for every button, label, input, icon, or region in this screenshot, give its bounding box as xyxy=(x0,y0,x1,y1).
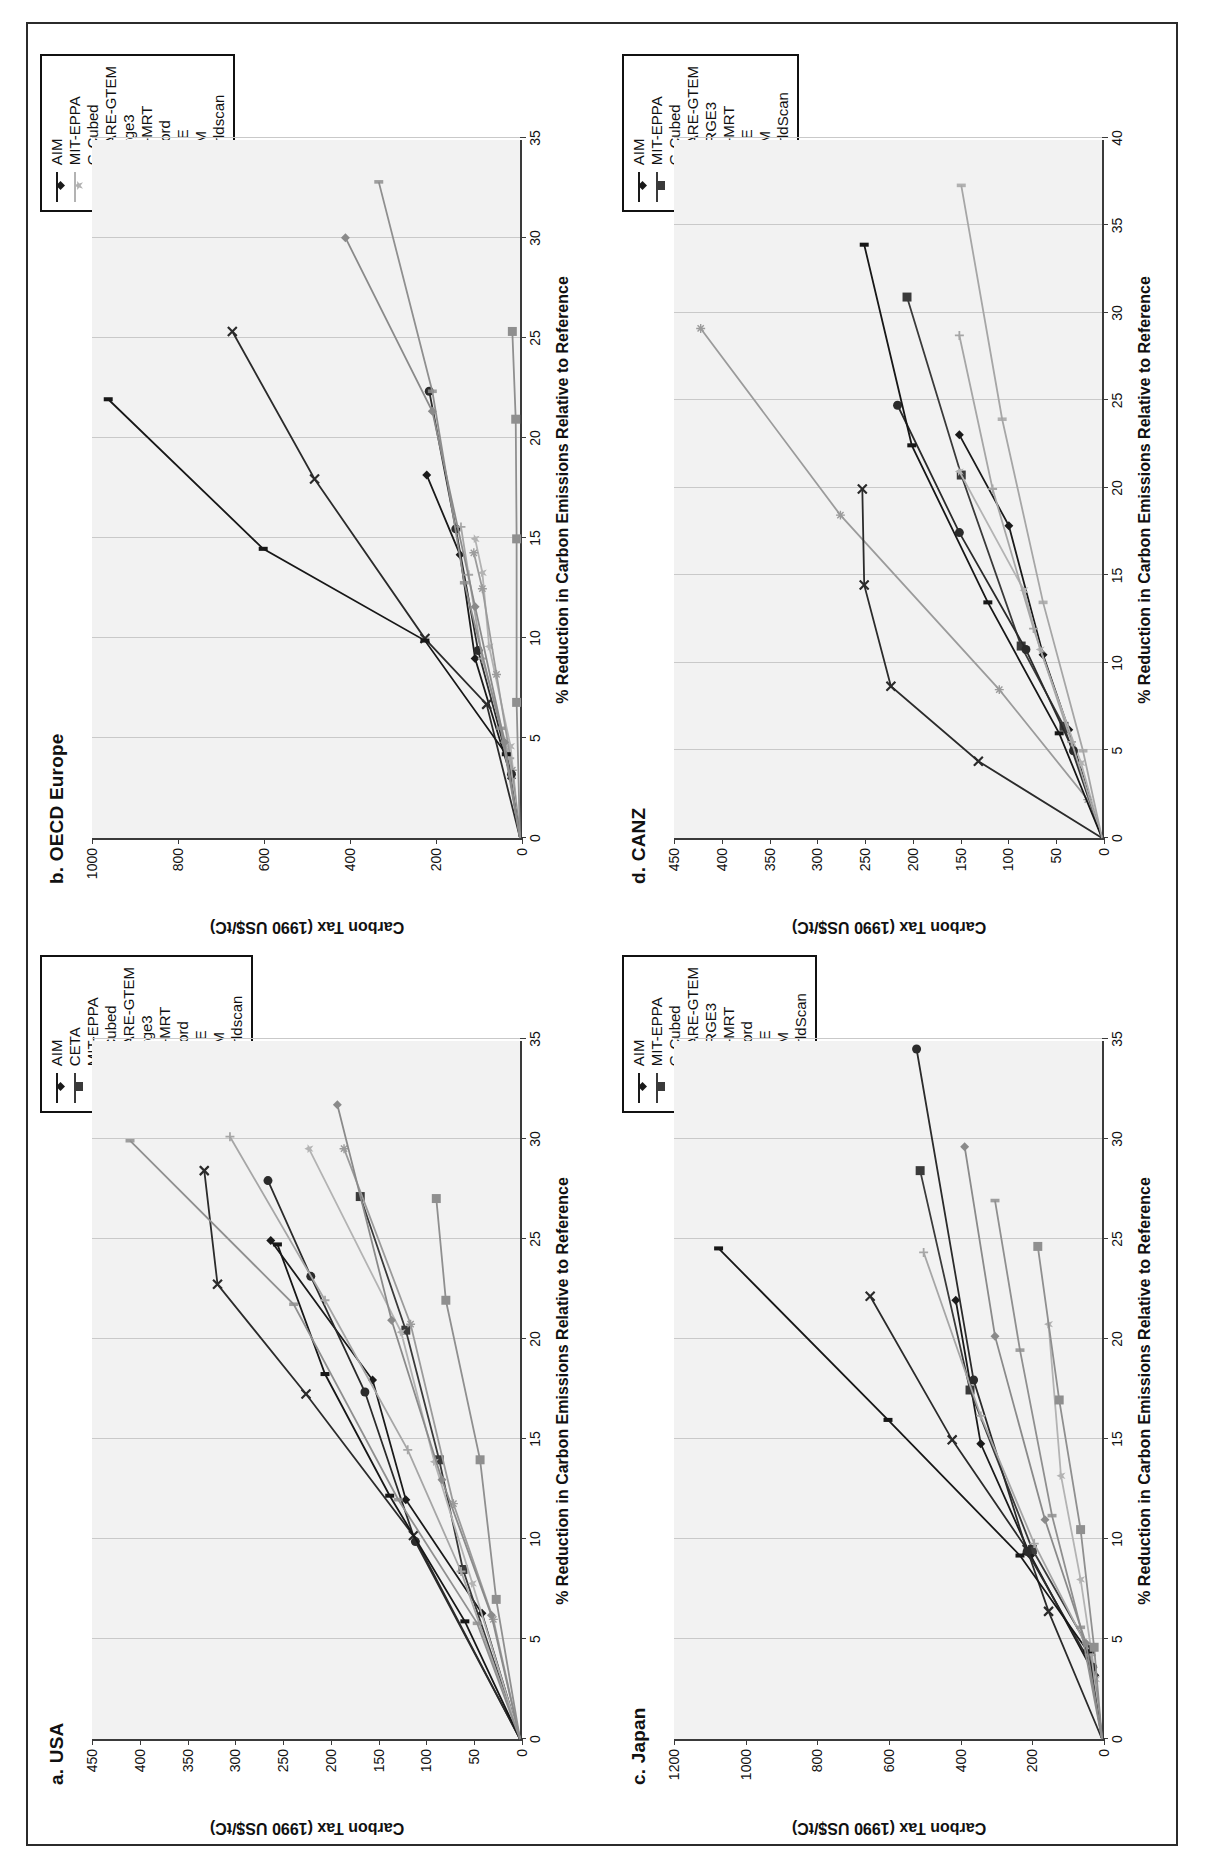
series-rice xyxy=(126,1139,520,1739)
legend-marker-icon xyxy=(68,172,82,202)
series-line xyxy=(512,331,520,838)
data-point xyxy=(1090,1643,1099,1652)
data-point xyxy=(360,1388,369,1397)
y-tick-label: 1200 xyxy=(666,1749,682,1780)
x-tick-label: 5 xyxy=(527,734,543,742)
y-tick-mark xyxy=(436,838,437,844)
x-tick-mark xyxy=(1102,575,1108,576)
series-oxford xyxy=(714,1246,1102,1739)
series-layer xyxy=(92,1041,520,1739)
data-point xyxy=(1016,1348,1025,1352)
legend-label: MIT-EPPA xyxy=(67,96,82,165)
y-tick-label: 250 xyxy=(857,848,873,871)
plot-area: 0510152025303502004006008001000 xyxy=(92,140,522,840)
x-tick-mark xyxy=(520,1538,526,1539)
x-tick-mark xyxy=(520,1338,526,1339)
series-line xyxy=(862,489,1102,838)
series-line xyxy=(345,238,520,838)
legend-item[interactable]: MIT-EPPA xyxy=(648,66,665,202)
x-axis-label: % Reduction in Carbon Emissions Relative… xyxy=(554,1041,572,1741)
x-tick-label: 10 xyxy=(1109,655,1125,671)
x-tick-mark xyxy=(1102,137,1108,138)
y-tick-mark xyxy=(379,1739,380,1745)
y-tick-mark xyxy=(92,838,93,844)
y-tick-label: 350 xyxy=(180,1749,196,1772)
legend-item[interactable]: MIT-EPPA xyxy=(66,66,83,202)
y-tick-label: 150 xyxy=(953,848,969,871)
x-tick-label: 5 xyxy=(527,1635,543,1643)
data-point xyxy=(512,698,521,707)
plot-background: 0510152025303540050100150200250300350400… xyxy=(674,140,1104,840)
x-tick-label: 30 xyxy=(527,1131,543,1147)
data-point xyxy=(333,1100,342,1109)
data-point xyxy=(912,1044,921,1053)
data-point xyxy=(428,389,437,393)
x-tick-label: 0 xyxy=(527,1735,543,1743)
y-tick-mark xyxy=(522,838,523,844)
panel-usa: a. USAAIMCETAMIT-EPPAG-CubedABARE-GTEMMe… xyxy=(28,929,628,1859)
data-point xyxy=(422,471,431,480)
x-tick-mark xyxy=(520,1638,526,1639)
data-point xyxy=(511,415,520,424)
legend-marker-icon xyxy=(632,1073,646,1103)
x-tick-mark xyxy=(1102,662,1108,663)
data-point xyxy=(387,1316,396,1325)
x-axis-label: % Reduction in Carbon Emissions Relative… xyxy=(554,140,572,840)
x-tick-label: 20 xyxy=(1109,1331,1125,1347)
series-line xyxy=(920,1171,1102,1739)
x-tick-mark xyxy=(520,437,526,438)
data-point xyxy=(512,534,521,543)
legend-item[interactable]: AIM xyxy=(48,66,65,202)
legend-label: AIM xyxy=(631,1040,646,1067)
y-axis-label: Carbon Tax (1990 US$/tC) xyxy=(92,1815,522,1837)
gridline-vertical xyxy=(674,1038,1102,1039)
y-tick-label: 250 xyxy=(275,1749,291,1772)
data-point xyxy=(321,1296,330,1305)
figure-page: b. OECD EuropeAIMMIT-EPPAG-CubedABARE-GT… xyxy=(0,0,1205,1870)
legend-item[interactable]: MIT-EPPA xyxy=(648,967,665,1103)
legend-label: AIM xyxy=(631,139,646,166)
data-point xyxy=(228,327,237,336)
series-line xyxy=(898,405,1102,838)
y-tick-label: 350 xyxy=(762,848,778,871)
data-point xyxy=(955,430,964,439)
y-tick-label: 300 xyxy=(227,1749,243,1772)
x-tick-label: 15 xyxy=(527,1431,543,1447)
y-tick-mark xyxy=(350,838,351,844)
y-tick-label: 50 xyxy=(466,1749,482,1765)
x-tick-mark xyxy=(520,737,526,738)
x-tick-label: 35 xyxy=(527,1031,543,1047)
series-sgm xyxy=(860,243,1102,838)
data-point xyxy=(1079,749,1088,753)
y-tick-label: 200 xyxy=(428,848,444,871)
legend-item[interactable]: CETA xyxy=(66,967,83,1103)
data-point xyxy=(374,180,383,184)
figure-frame: b. OECD EuropeAIMMIT-EPPAG-CubedABARE-GT… xyxy=(26,22,1178,1846)
chart-usa: a. USAAIMCETAMIT-EPPAG-CubedABARE-GTEMMe… xyxy=(36,937,616,1837)
data-point xyxy=(460,581,469,585)
panel-canz: d. CANZAIMMIT-EPPAG-CubedABARE-GTEMMERGE… xyxy=(604,26,1204,956)
x-tick-label: 10 xyxy=(527,1531,543,1547)
data-point xyxy=(1004,521,1013,530)
legend-item[interactable]: AIM xyxy=(48,967,65,1103)
legend-item[interactable]: AIM xyxy=(630,967,647,1103)
series-mit-eppa xyxy=(903,293,1102,838)
legend-item[interactable]: AIM xyxy=(630,66,647,202)
x-tick-mark xyxy=(520,1038,526,1039)
data-point xyxy=(998,417,1007,421)
series-oxford xyxy=(104,397,520,838)
y-tick-label: 600 xyxy=(256,848,272,871)
data-point xyxy=(273,1242,282,1246)
y-tick-mark xyxy=(865,838,866,844)
x-tick-mark xyxy=(1102,1238,1108,1239)
series-line xyxy=(232,331,520,838)
data-point xyxy=(460,1619,469,1623)
x-tick-label: 25 xyxy=(527,1231,543,1247)
data-point xyxy=(983,600,992,604)
panel-japan: c. JapanAIMMIT-EPPAG-CubedABARE-GTEMMERG… xyxy=(604,929,1204,1859)
x-tick-mark xyxy=(1102,1538,1108,1539)
series-rice xyxy=(374,180,520,838)
data-point xyxy=(476,1455,485,1464)
x-tick-label: 30 xyxy=(527,230,543,246)
y-tick-label: 400 xyxy=(953,1749,969,1772)
